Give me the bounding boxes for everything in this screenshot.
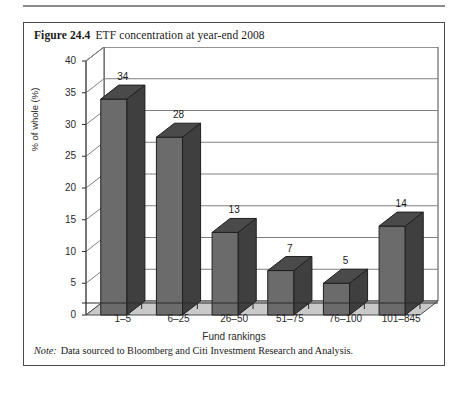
y-axis-tick-label: 20 (54, 182, 76, 193)
y-axis-tick-label: 25 (54, 150, 76, 161)
x-axis-tick-label: 6–25 (149, 313, 209, 324)
figure-number: Figure 24.4 (34, 29, 90, 41)
note-label: Note: (34, 345, 57, 356)
y-axis-tick-label: 0 (54, 309, 76, 320)
bar-value-label: 34 (108, 71, 138, 82)
top-divider-rule (23, 5, 445, 7)
x-axis-tick-label: 1–5 (93, 313, 153, 324)
y-axis-tick-label: 10 (54, 246, 76, 257)
x-axis-tick-label: 76–100 (316, 313, 376, 324)
y-axis-tick-label: 15 (54, 214, 76, 225)
bar-value-label: 5 (331, 255, 361, 266)
note-text: Data sourced to Bloomberg and Citi Inves… (61, 345, 353, 356)
figure-caption: Figure 24.4ETF concentration at year-end… (34, 29, 265, 41)
x-axis-tick-label: 51–75 (260, 313, 320, 324)
x-axis-tick-label: 101–845 (371, 313, 431, 324)
figure-title: ETF concentration at year-end 2008 (95, 29, 264, 41)
x-axis-title: Fund rankings (24, 331, 444, 342)
chart-plot (24, 47, 444, 337)
figure-container: Figure 24.4ETF concentration at year-end… (23, 22, 445, 366)
bar-value-label: 13 (219, 204, 249, 215)
x-axis-tick-label: 26–50 (204, 313, 264, 324)
bar-value-label: 28 (164, 109, 194, 120)
y-axis-tick-label: 5 (54, 277, 76, 288)
figure-note: Note:Data sourced to Bloomberg and Citi … (34, 345, 353, 356)
y-axis-tick-label: 30 (54, 119, 76, 130)
bar-value-label: 7 (275, 243, 305, 254)
y-axis-tick-label: 40 (54, 55, 76, 66)
bar-value-label: 14 (386, 198, 416, 209)
y-axis-tick-label: 35 (54, 87, 76, 98)
chart-area: % of whole (%) 0510152025303540 1–56–252… (24, 47, 444, 337)
